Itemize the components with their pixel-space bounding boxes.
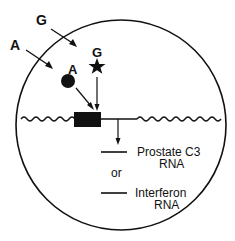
inner-label-g: G	[92, 45, 102, 60]
interferon-rna-label: RNA	[154, 198, 179, 212]
outer-label-a: A	[10, 37, 20, 53]
outer-label-g: G	[36, 12, 47, 28]
transcription-arrow	[116, 119, 121, 145]
cell-membrane	[16, 20, 226, 230]
arrow-g-to-gene	[95, 77, 100, 111]
hormone-a-dot	[61, 74, 75, 88]
gene-box	[74, 112, 101, 127]
or-label: or	[111, 166, 122, 180]
prostate-rna-label: RNA	[159, 157, 184, 171]
hormone-g-star-icon	[89, 58, 106, 74]
dna-strand-right	[137, 117, 221, 121]
arrow-a-entry	[26, 50, 53, 69]
arrow-a-to-gene	[76, 88, 94, 110]
dna-strand-left	[21, 117, 75, 121]
cell-diagram: A G A G Prostate C3 RNA or Interferon RN…	[0, 0, 235, 241]
